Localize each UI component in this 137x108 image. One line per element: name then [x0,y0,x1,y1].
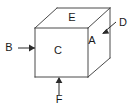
cube-diagram: E A C B D F [0,0,137,108]
cube-illustration: E A C B D F [0,0,137,108]
arrow-head-f-icon [56,77,63,83]
label-arrow-d: D [119,16,127,28]
arrow-head-b-icon [29,45,35,52]
label-front-face-c: C [54,44,62,56]
label-right-face-a: A [88,34,96,46]
label-top-face-e: E [68,11,75,23]
label-arrow-b: B [5,41,12,53]
label-arrow-f: F [56,93,63,105]
